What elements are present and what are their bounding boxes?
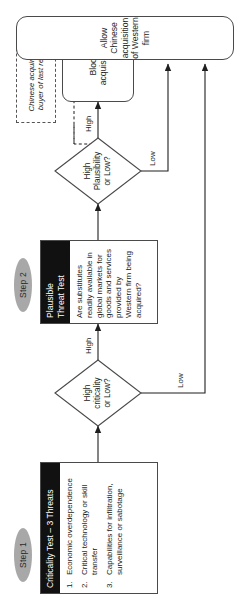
threat-number: 2. xyxy=(80,579,99,588)
plausible-threat-test-body: Are substitutes readily available in glo… xyxy=(70,241,157,323)
criticality-low-label: Low xyxy=(176,373,185,388)
threat-text: Economic overdependence xyxy=(65,468,75,575)
list-item: 3. Capabilities for infiltration, survei… xyxy=(105,468,124,588)
criticality-test-panel: Criticality Test – 3 Threats 1. Economic… xyxy=(40,462,158,594)
criticality-high-label: High xyxy=(84,338,93,354)
step-2-pill: Step 2 xyxy=(14,258,32,312)
threat-list: 1. Economic overdependence 2. Critical t… xyxy=(65,468,125,588)
criticality-test-body: 1. Economic overdependence 2. Critical t… xyxy=(60,463,158,593)
criticality-decision-label: High criticality or Low? xyxy=(83,377,112,408)
allow-acquisition-box: Allow Chinese acquisition of Western fir… xyxy=(16,16,234,60)
diagram-viewport: Step 1 Criticality Test – 3 Threats 1. E… xyxy=(0,0,250,612)
threat-text: Capabilities for infiltration, surveilla… xyxy=(105,468,124,575)
plausible-threat-test-title: Plausible Threat Test xyxy=(41,241,70,323)
plausible-threat-test-panel: Plausible Threat Test Are substitutes re… xyxy=(40,240,158,324)
plausibility-decision: High Plausibility or Low? xyxy=(55,138,141,204)
criticality-test-title: Criticality Test – 3 Threats xyxy=(41,463,60,593)
plausibility-low-label: Low xyxy=(148,151,157,166)
flowchart-stage: Step 1 Criticality Test – 3 Threats 1. E… xyxy=(0,0,250,612)
list-item: 1. Economic overdependence xyxy=(65,468,75,588)
threat-number: 3. xyxy=(105,579,124,588)
step-1-label: Step 1 xyxy=(18,542,28,568)
plausibility-high-label: High xyxy=(84,116,93,132)
threat-number: 1. xyxy=(65,579,75,588)
threat-text: Critical technology or skill transfer xyxy=(80,468,99,575)
plausible-threat-question: Are substitutes readily available in glo… xyxy=(75,246,144,318)
list-item: 2. Critical technology or skill transfer xyxy=(80,468,99,588)
step-2-label: Step 2 xyxy=(18,272,28,298)
step-1-pill: Step 1 xyxy=(14,528,32,582)
criticality-decision: High criticality or Low? xyxy=(55,360,141,426)
plausibility-decision-label: High Plausibility or Low? xyxy=(83,152,112,191)
